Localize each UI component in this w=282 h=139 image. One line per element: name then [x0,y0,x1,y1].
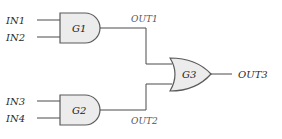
wire-out2 [100,84,172,110]
label-g1: G1 [72,23,86,34]
label-in4: IN4 [5,113,25,124]
logic-diagram: IN1 IN2 IN3 IN4 G1 G2 OUT1 OUT2 G3 OUT3 [0,0,282,139]
wire-out1 [100,28,172,64]
label-in3: IN3 [5,96,25,107]
label-g2: G2 [72,105,86,116]
label-out1: OUT1 [131,14,158,24]
label-in2: IN2 [5,32,25,43]
label-g3: G3 [182,69,196,80]
label-out3: OUT3 [238,69,268,80]
label-in1: IN1 [5,15,25,26]
label-out2: OUT2 [131,116,158,126]
